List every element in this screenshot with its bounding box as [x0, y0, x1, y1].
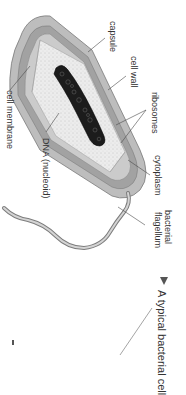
- label-ribosomes: ribosomes: [150, 92, 160, 134]
- label-cell-wall: cell wall: [129, 56, 139, 88]
- bacterial-cell-diagram: capsule cell wall ribosomes cytoplasm ba…: [0, 0, 186, 395]
- flagellum: [4, 193, 129, 248]
- label-capsule: capsule: [108, 21, 118, 52]
- caption: A typical bacterial cell: [156, 290, 168, 395]
- label-cytoplasm: cytoplasm: [153, 155, 163, 196]
- label-dna: DNA (nucleoid): [41, 138, 51, 199]
- label-cell-membrane: cell membrane: [5, 90, 15, 149]
- scan-mark: [120, 308, 152, 355]
- label-flagellum-line2: flagellum: [153, 212, 163, 248]
- scan-mark: [12, 340, 14, 345]
- label-flagellum-line1: bacterial: [163, 210, 173, 244]
- caption-triangle-icon: [160, 277, 168, 285]
